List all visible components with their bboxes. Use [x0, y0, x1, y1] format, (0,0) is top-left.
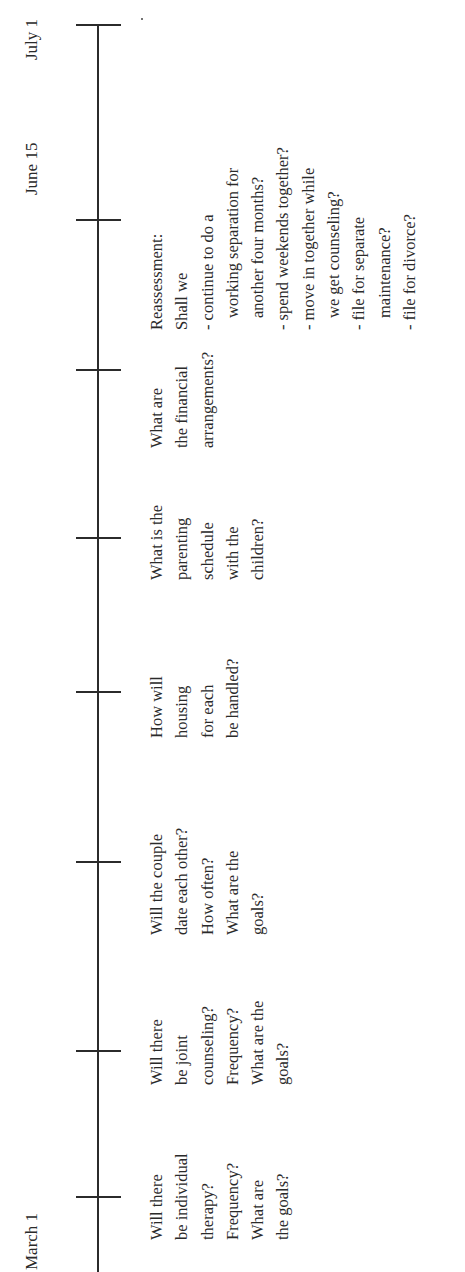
timeline-tick	[76, 1050, 121, 1052]
question-text-line: goals?	[245, 828, 270, 935]
timeline-question-block: How willhousingfor eachbe handled?	[144, 659, 245, 738]
question-text-line: - file for divorce?	[397, 147, 422, 330]
question-text-line: be joint	[169, 1001, 194, 1085]
question-text-line: working separation for	[220, 147, 245, 330]
question-text-line: the goals?	[270, 1153, 295, 1240]
question-text-line: What are the	[220, 828, 245, 935]
question-text-line: Shall we	[169, 147, 194, 330]
stray-dot-mark	[141, 18, 143, 20]
question-text-line: - move in together while	[296, 147, 321, 330]
question-text-line: Reassessment:	[144, 147, 169, 330]
question-text-line: with the	[220, 505, 245, 580]
timeline-question-block: Reassessment:Shall we- continue to do aw…	[144, 147, 422, 330]
question-text-line: the financial	[169, 352, 194, 448]
question-text-line: we get counseling?	[321, 147, 346, 330]
question-text-line: - continue to do a	[195, 147, 220, 330]
timeline-question-block: Will the coupledate each other?How often…	[144, 828, 270, 935]
question-text-line: children?	[245, 505, 270, 580]
timeline-tick	[76, 861, 121, 863]
question-text-line: for each	[195, 659, 220, 738]
question-text-line: What are	[144, 352, 169, 448]
question-text-line: maintenance?	[372, 147, 397, 330]
question-text-line: goals?	[270, 1001, 295, 1085]
timeline-diagram: March 1 June 15 July 1 Will therebe indi…	[0, 0, 465, 1272]
question-text-line: counseling?	[195, 1001, 220, 1085]
timeline-question-block: What is theparentingschedulewith thechil…	[144, 505, 270, 580]
question-text-line: arrangements?	[195, 352, 220, 448]
question-text-line: parenting	[169, 505, 194, 580]
question-text-line: What are the	[245, 1001, 270, 1085]
question-text-line: - spend weekends together?	[270, 147, 295, 330]
question-text-line: Will there	[144, 1153, 169, 1240]
timeline-tick	[76, 537, 121, 539]
timeline-question-block: What arethe financialarrangements?	[144, 352, 220, 448]
timeline-tick	[76, 24, 121, 26]
question-text-line: Will there	[144, 1001, 169, 1085]
timeline-axis-line	[97, 25, 99, 1272]
question-text-line: How often?	[195, 828, 220, 935]
question-text-line: be handled?	[220, 659, 245, 738]
timeline-tick	[76, 219, 121, 221]
question-text-line: another four months?	[245, 147, 270, 330]
question-text-line: therapy?	[195, 1153, 220, 1240]
timeline-tick	[76, 691, 121, 693]
question-text-line: date each other?	[169, 828, 194, 935]
question-text-line: Frequency?	[220, 1001, 245, 1085]
date-label-march-1: March 1	[22, 1213, 42, 1270]
timeline-question-block: Will therebe jointcounseling?Frequency?W…	[144, 1001, 296, 1085]
timeline-question-block: Will therebe individualtherapy?Frequency…	[144, 1153, 296, 1240]
date-label-july-1: July 1	[22, 19, 42, 60]
question-text-line: schedule	[195, 505, 220, 580]
timeline-tick	[76, 369, 121, 371]
question-text-line: What is the	[144, 505, 169, 580]
question-text-line: be individual	[169, 1153, 194, 1240]
question-text-line: What are	[245, 1153, 270, 1240]
question-text-line: How will	[144, 659, 169, 738]
question-text-line: Will the couple	[144, 828, 169, 935]
question-text-line: - file for separate	[346, 147, 371, 330]
timeline-tick	[76, 1196, 121, 1198]
question-text-line: housing	[169, 659, 194, 738]
question-text-line: Frequency?	[220, 1153, 245, 1240]
date-label-june-15: June 15	[22, 143, 42, 195]
